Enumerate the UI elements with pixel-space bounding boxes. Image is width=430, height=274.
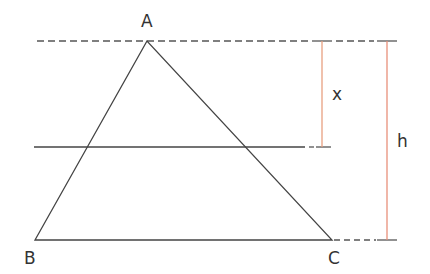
vertex-a-label: A — [141, 11, 153, 31]
triangle-abc — [35, 41, 332, 240]
triangle-diagram: A B C x h — [0, 0, 430, 274]
measure-h-label: h — [397, 131, 408, 151]
vertex-b-label: B — [24, 248, 36, 268]
measure-x-label: x — [332, 84, 342, 104]
diagram-canvas: A B C x h — [0, 0, 430, 274]
vertex-c-label: C — [328, 248, 340, 268]
